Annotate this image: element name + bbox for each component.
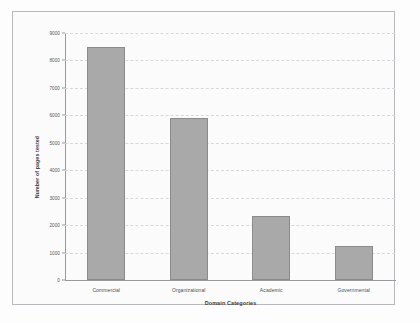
- y-tick-label: 1000: [49, 250, 60, 255]
- bar[interactable]: [170, 118, 208, 280]
- y-tick-label: 3000: [49, 195, 60, 200]
- y-tick-label: 9000: [49, 31, 60, 36]
- bar-series: CommercialOrganizationalAcademicGovernme…: [65, 33, 395, 280]
- x-tick-label: Governmental: [337, 287, 370, 293]
- bar-slot: Organizational: [148, 33, 231, 280]
- bar-slot: Academic: [230, 33, 313, 280]
- bar-slot: Governmental: [313, 33, 396, 280]
- x-tick-label: Academic: [260, 287, 283, 293]
- bar[interactable]: [335, 246, 373, 280]
- y-tick-label: 4000: [49, 168, 60, 173]
- x-axis-title: Domain Categories: [65, 300, 396, 306]
- y-axis-title: Number of pages tested: [34, 136, 40, 198]
- y-tick-label: 5000: [49, 140, 60, 145]
- figure-canvas: Number of pages tested 01000200030004000…: [0, 0, 420, 323]
- figure-frame: Number of pages tested 01000200030004000…: [12, 11, 395, 305]
- y-tick-label: 7000: [49, 85, 60, 90]
- x-tick-label: Organizational: [172, 287, 206, 293]
- x-axis-line: [65, 280, 396, 281]
- bar-slot: Commercial: [65, 33, 148, 280]
- x-tick-label: Commercial: [92, 287, 120, 293]
- y-tick-label: 2000: [49, 223, 60, 228]
- bar[interactable]: [252, 216, 290, 280]
- bar[interactable]: [87, 47, 125, 280]
- y-tick-label: 6000: [49, 113, 60, 118]
- plot-area: 0100020003000400050006000700080009000 Co…: [65, 33, 395, 280]
- y-tick-label: 8000: [49, 58, 60, 63]
- y-tick-label: 0: [57, 278, 60, 283]
